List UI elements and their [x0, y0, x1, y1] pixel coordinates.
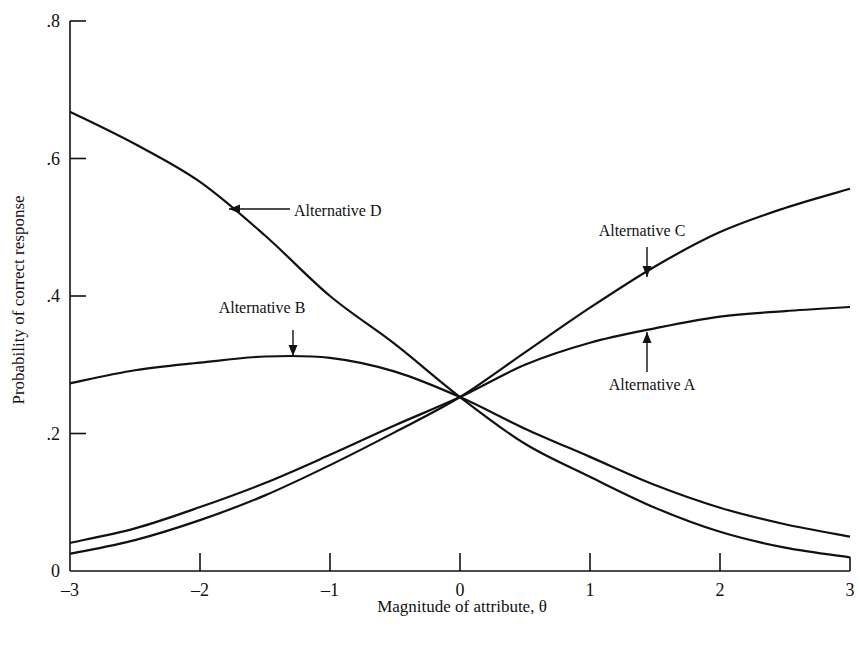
annotation-label-alternative-c: Alternative C — [599, 222, 686, 239]
curve-alternative-a — [70, 307, 850, 543]
annotation-label-alternative-a: Alternative A — [609, 376, 696, 393]
x-tick-label: –3 — [60, 580, 79, 600]
x-tick-label: 1 — [586, 580, 595, 600]
x-tick-label: –1 — [320, 580, 339, 600]
axes — [70, 21, 850, 571]
y-tick-label: 0 — [51, 561, 60, 581]
arrow-alternative-d-icon — [229, 205, 290, 214]
y-tick-label: .8 — [47, 11, 61, 31]
annotations — [229, 205, 652, 373]
curve-alternative-b — [70, 356, 850, 537]
curve-alternative-d — [70, 112, 850, 558]
annotation-label-alternative-b: Alternative B — [219, 299, 306, 316]
x-tick-label: 3 — [846, 580, 855, 600]
irt-option-characteristic-chart: 0.2.4.6.8–3–2–10123 Magnitude of attribu… — [0, 0, 861, 650]
annotation-label-alternative-d: Alternative D — [294, 202, 382, 219]
y-axis-label: Probability of correct response — [9, 195, 28, 404]
y-tick-label: .4 — [47, 286, 61, 306]
x-tick-label: –2 — [190, 580, 209, 600]
curves — [70, 112, 850, 558]
y-tick-label: .2 — [47, 424, 61, 444]
arrow-alternative-b-icon — [289, 330, 298, 356]
curve-alternative-c — [70, 189, 850, 554]
y-tick-label: .6 — [47, 149, 61, 169]
x-tick-label: 2 — [716, 580, 725, 600]
arrow-alternative-a-icon — [643, 332, 652, 372]
x-axis-label: Magnitude of attribute, θ — [377, 597, 547, 616]
